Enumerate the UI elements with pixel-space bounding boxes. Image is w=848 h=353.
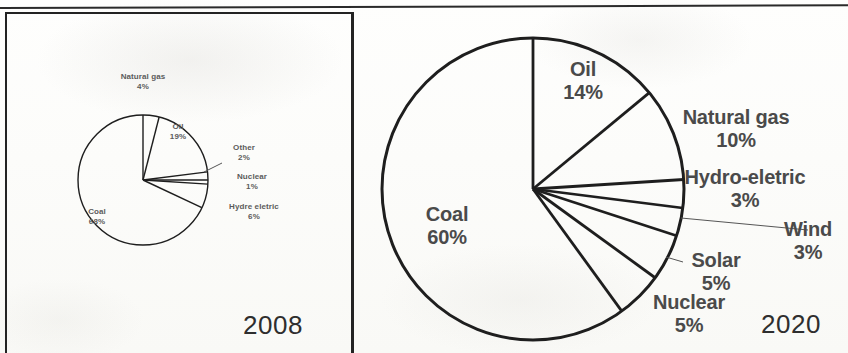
label-2008-nuclear-name: Nuclear xyxy=(228,172,276,182)
label-2020-hydro-electric: Hydro-eletric 3% xyxy=(671,166,819,212)
pie-chart-2008: Natural gas 4% Oil 19% Other 2% Nuclear … xyxy=(0,0,353,353)
pie-2008-divider-other-start xyxy=(143,172,207,180)
pie-chart-2020: Oil 14% Natural gas 10% Hydro-eletric 3%… xyxy=(353,0,848,353)
label-2020-coal-name: Coal xyxy=(408,203,486,226)
label-2008-hydro-electric-name: Hydre eletric xyxy=(218,202,290,212)
label-2008-nuclear: Nuclear 1% xyxy=(228,172,276,192)
year-label-2008: 2008 xyxy=(243,310,303,341)
label-2020-nuclear-name: Nuclear xyxy=(635,291,743,314)
label-2020-nuclear-value: 5% xyxy=(635,314,743,337)
label-2020-solar: Solar 5% xyxy=(682,249,750,295)
label-2020-natural-gas-name: Natural gas xyxy=(670,106,802,129)
label-2020-oil-name: Oil xyxy=(545,58,621,81)
label-2008-coal-name: Coal xyxy=(74,207,120,217)
label-2020-natural-gas: Natural gas 10% xyxy=(670,106,802,152)
label-2008-coal: Coal 68% xyxy=(74,207,120,227)
label-2020-nuclear: Nuclear 5% xyxy=(635,291,743,337)
label-2008-nuclear-value: 1% xyxy=(228,182,276,192)
label-2020-solar-name: Solar xyxy=(682,249,750,272)
pie-2020-divider-hydro-start xyxy=(533,180,684,189)
pie-2020-divider-solar-start xyxy=(533,189,677,236)
label-2020-natural-gas-value: 10% xyxy=(670,129,802,152)
label-2008-other-value: 2% xyxy=(222,153,266,163)
label-2020-oil-value: 14% xyxy=(545,81,621,104)
label-2008-oil-name: Oil xyxy=(158,122,198,132)
label-2008-hydro-electric: Hydre eletric 6% xyxy=(218,202,290,222)
label-2008-oil: Oil 19% xyxy=(158,122,198,142)
label-2020-wind-name: Wind xyxy=(773,218,843,241)
label-2020-hydro-electric-name: Hydro-eletric xyxy=(671,166,819,189)
year-label-2020: 2020 xyxy=(761,309,821,340)
label-2008-natural-gas-name: Natural gas xyxy=(104,72,182,82)
label-2008-other: Other 2% xyxy=(222,143,266,163)
pie-2020-leader-solar xyxy=(666,257,683,262)
label-2020-hydro-electric-value: 3% xyxy=(671,189,819,212)
label-2008-oil-value: 19% xyxy=(158,132,198,142)
label-2020-oil: Oil 14% xyxy=(545,58,621,104)
label-2020-coal-value: 60% xyxy=(408,226,486,249)
scanned-page: Natural gas 4% Oil 19% Other 2% Nuclear … xyxy=(0,0,848,353)
pie-2008-divider-oil-start xyxy=(143,117,159,180)
label-2008-natural-gas-value: 4% xyxy=(104,82,182,92)
label-2008-coal-value: 68% xyxy=(74,217,120,227)
label-2008-hydro-electric-value: 6% xyxy=(218,212,290,222)
pie-2008-svg xyxy=(0,0,353,353)
label-2020-wind: Wind 3% xyxy=(773,218,843,264)
pie-2008-divider-coal-start xyxy=(143,180,202,208)
pie-2020-divider-coal-start xyxy=(533,189,622,311)
label-2008-natural-gas: Natural gas 4% xyxy=(104,72,182,92)
label-2020-coal: Coal 60% xyxy=(408,203,486,249)
label-2020-wind-value: 3% xyxy=(773,241,843,264)
pie-2020-divider-natural-gas-start xyxy=(533,93,649,189)
label-2008-other-name: Other xyxy=(222,143,266,153)
